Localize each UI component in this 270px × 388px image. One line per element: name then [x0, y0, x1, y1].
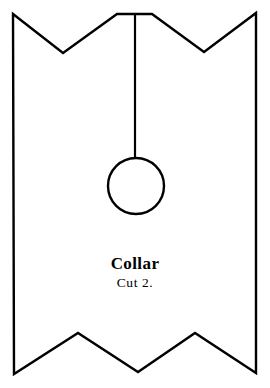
- cut-instruction-label: Cut 2.: [0, 275, 270, 291]
- pattern-drawing: [0, 0, 270, 388]
- page-title: Collar: [0, 254, 270, 273]
- pattern-sheet: Collar Cut 2.: [0, 0, 270, 388]
